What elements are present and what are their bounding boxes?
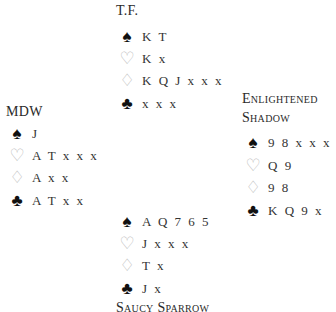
east-diamonds: 9 8 (268, 180, 290, 196)
west-spades-row: ♠ J (8, 123, 39, 145)
east-hearts: Q 9 (268, 158, 293, 174)
club-icon: ♣ (118, 280, 136, 298)
east-hearts-row: ♡ Q 9 (244, 155, 293, 177)
east-diamonds-row: ♢ 9 8 (244, 177, 290, 199)
west-hearts: A T x x x (32, 148, 99, 164)
south-hearts: J x x x (142, 236, 190, 252)
club-icon: ♣ (118, 95, 136, 113)
south-clubs-row: ♣ J x (118, 278, 163, 300)
diamond-icon: ♢ (118, 72, 136, 90)
west-diamonds-row: ♢ A x x (8, 167, 70, 189)
north-hearts-row: ♡ K x (118, 48, 167, 70)
west-hand: MDW ♠ J ♡ A T x x x ♢ A x x ♣ A T x x (6, 104, 116, 214)
south-diamonds: T x (142, 258, 165, 274)
east-spades-row: ♠ 9 8 x x x (244, 132, 332, 154)
west-player-name: MDW (6, 104, 43, 120)
heart-icon: ♡ (244, 157, 262, 175)
south-spades-row: ♠ A Q 7 6 5 (118, 211, 211, 233)
diamond-icon: ♢ (118, 257, 136, 275)
south-clubs: J x (142, 281, 163, 297)
spade-icon: ♠ (8, 125, 26, 143)
diamond-icon: ♢ (244, 179, 262, 197)
north-player-name: T.F. (116, 3, 138, 19)
north-diamonds: K Q J x x x (142, 73, 224, 89)
west-diamonds: A x x (32, 170, 70, 186)
east-spades: 9 8 x x x (268, 135, 332, 151)
west-clubs: A T x x (32, 193, 85, 209)
spade-icon: ♠ (118, 213, 136, 231)
north-clubs-row: ♣ x x x (118, 93, 178, 115)
east-player-name-line2: Shadow (242, 110, 290, 126)
spade-icon: ♠ (118, 28, 136, 46)
north-spades: K T (142, 29, 168, 45)
south-diamonds-row: ♢ T x (118, 255, 165, 277)
south-hand: ♠ A Q 7 6 5 ♡ J x x x ♢ T x ♣ J x Saucy … (116, 210, 256, 312)
north-diamonds-row: ♢ K Q J x x x (118, 70, 224, 92)
north-hearts: K x (142, 51, 167, 67)
south-spades: A Q 7 6 5 (142, 214, 211, 230)
heart-icon: ♡ (8, 147, 26, 165)
west-clubs-row: ♣ A T x x (8, 190, 85, 212)
east-clubs: K Q 9 x (268, 203, 324, 219)
north-clubs: x x x (142, 96, 178, 112)
diamond-icon: ♢ (8, 169, 26, 187)
south-hearts-row: ♡ J x x x (118, 233, 190, 255)
west-spades: J (32, 126, 39, 142)
east-player-name-line1: Enlightened (242, 91, 318, 107)
spade-icon: ♠ (244, 134, 262, 152)
east-hand: Enlightened Shadow ♠ 9 8 x x x ♡ Q 9 ♢ 9… (242, 91, 336, 221)
south-player-name: Saucy Sparrow (116, 300, 209, 312)
west-hearts-row: ♡ A T x x x (8, 145, 99, 167)
club-icon: ♣ (8, 192, 26, 210)
heart-icon: ♡ (118, 235, 136, 253)
heart-icon: ♡ (118, 50, 136, 68)
north-spades-row: ♠ K T (118, 26, 168, 48)
north-hand: T.F. ♠ K T ♡ K x ♢ K Q J x x x ♣ x x x (116, 3, 256, 115)
